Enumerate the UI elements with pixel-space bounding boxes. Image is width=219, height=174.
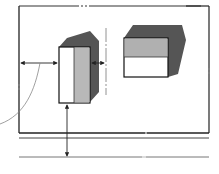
technical-drawing [0, 0, 219, 174]
diagram-canvas [0, 0, 219, 174]
wide-block [124, 25, 186, 77]
curved-leader [0, 63, 40, 124]
tall-block [59, 31, 99, 103]
floor-lines [19, 138, 209, 157]
dash-marks [19, 68, 209, 157]
